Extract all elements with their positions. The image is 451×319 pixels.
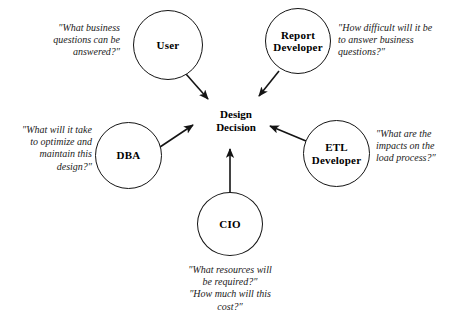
node-report-developer-label: Report Developer — [273, 29, 322, 54]
node-etl-developer-label: ETL Developer — [312, 141, 361, 166]
quote-report-developer: ″How difficult will it be to answer busi… — [338, 22, 448, 59]
arrow-report-developer-to-center — [259, 71, 279, 96]
node-dba-label: DBA — [117, 149, 141, 162]
node-report-developer[interactable]: Report Developer — [265, 8, 331, 74]
node-cio-label: CIO — [219, 218, 240, 231]
node-etl-developer[interactable]: ETL Developer — [303, 120, 370, 187]
arrow-user-to-center — [186, 74, 208, 99]
node-dba[interactable]: DBA — [95, 122, 162, 189]
design-decision-diagram: User Report Developer DBA ETL Developer … — [0, 0, 451, 319]
quote-etl-developer: ″What are the impacts on the load proces… — [376, 128, 450, 165]
center-node-design-decision: Design Decision — [196, 108, 276, 133]
arrow-dba-to-center — [157, 125, 193, 149]
quote-user: ″What business questions can be answered… — [8, 22, 120, 59]
node-user-label: User — [157, 39, 180, 52]
quote-cio: ″What resources will be required?″ ″How … — [152, 264, 308, 313]
node-cio[interactable]: CIO — [197, 192, 263, 256]
node-user[interactable]: User — [133, 10, 203, 80]
quote-dba: ″What will it take to optimize and maint… — [2, 124, 92, 173]
